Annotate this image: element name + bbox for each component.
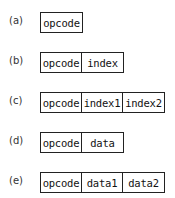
instruction-format-box: opcode data bbox=[40, 132, 124, 153]
field-cell-index: index bbox=[82, 53, 123, 72]
format-row-b: (b) opcode index bbox=[0, 52, 175, 73]
format-label: (e) bbox=[9, 175, 23, 186]
field-cell-data2: data2 bbox=[123, 173, 164, 192]
field-cell-opcode: opcode bbox=[41, 93, 82, 112]
format-label: (d) bbox=[9, 135, 23, 146]
instruction-format-box: opcode index bbox=[40, 52, 124, 73]
format-label: (b) bbox=[9, 55, 23, 66]
format-row-d: (d) opcode data bbox=[0, 132, 175, 153]
format-label: (c) bbox=[9, 95, 22, 106]
field-cell-opcode: opcode bbox=[41, 173, 82, 192]
field-cell-data: data bbox=[82, 133, 123, 152]
field-cell-data1: data1 bbox=[82, 173, 123, 192]
format-row-e: (e) opcode data1 data2 bbox=[0, 172, 175, 193]
field-cell-opcode: opcode bbox=[41, 13, 82, 32]
instruction-format-box: opcode data1 data2 bbox=[40, 172, 165, 193]
instruction-format-box: opcode index1 index2 bbox=[40, 92, 165, 113]
instruction-format-box: opcode bbox=[40, 12, 83, 33]
format-row-c: (c) opcode index1 index2 bbox=[0, 92, 175, 113]
field-cell-index1: index1 bbox=[82, 93, 123, 112]
field-cell-index2: index2 bbox=[123, 93, 164, 112]
field-cell-opcode: opcode bbox=[41, 133, 82, 152]
format-label: (a) bbox=[9, 15, 23, 26]
field-cell-opcode: opcode bbox=[41, 53, 82, 72]
format-row-a: (a) opcode bbox=[0, 12, 175, 33]
